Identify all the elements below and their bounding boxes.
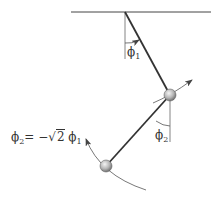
sqrt-sign: √ <box>48 130 56 144</box>
mode-equation: ϕ2= −√2 ϕ1 <box>11 130 82 146</box>
bob-1 <box>164 89 176 101</box>
bob2-motion-arrow <box>86 139 146 190</box>
double-pendulum-diagram: ϕ1 ϕ2 ϕ2= −√2 ϕ1 <box>0 0 211 198</box>
phi2-label: ϕ2 <box>155 128 168 144</box>
equation-lhs: ϕ <box>11 130 19 144</box>
diagram-canvas: ϕ1 ϕ2 <box>0 0 211 198</box>
bob-2 <box>100 160 112 172</box>
phi1-label: ϕ1 <box>127 45 140 61</box>
phi2-angle-arc <box>156 121 170 126</box>
sqrt-radicand: 2 <box>56 129 65 144</box>
phi1-angle-arc <box>125 40 139 43</box>
equation-equals-minus: = − <box>24 130 48 144</box>
equation-rhs: ϕ <box>68 130 76 144</box>
equation-rhs-subscript: 1 <box>77 137 82 146</box>
